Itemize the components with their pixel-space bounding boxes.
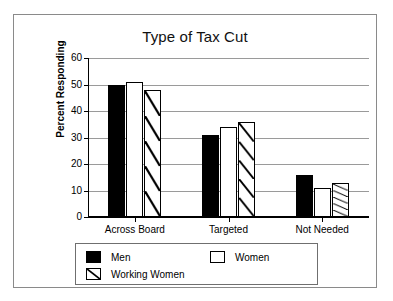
plot-inner: 0102030405060 Across BoardTargetedNot Ne… [88,58,369,217]
legend-entry-men[interactable]: Men [86,250,130,264]
legend-swatch-men-icon [86,251,101,263]
x-tick-mark-not-needed [322,217,323,222]
y-tick-label-0: 0 [56,212,82,222]
y-tick-label-10: 10 [56,186,82,196]
x-category-label-not-needed: Not Needed [295,224,348,235]
chart-title: Type of Tax Cut [14,28,376,45]
bar-across-board-women[interactable] [126,82,143,217]
bar-across-board-working-women[interactable] [144,90,161,217]
bar-group-across-board [108,58,161,217]
bar-group-targeted [202,58,255,217]
legend-label-men: Men [111,252,130,263]
bars-layer [88,58,369,217]
legend-swatch-working-women-icon [86,268,101,280]
y-tick-label-40: 40 [56,106,82,116]
y-tick-label-20: 20 [56,159,82,169]
bar-not-needed-working-women[interactable] [332,183,349,217]
legend-swatch-women-icon [210,251,225,263]
x-category-label-targeted: Targeted [209,224,248,235]
bar-targeted-working-women[interactable] [238,122,255,217]
y-tick-label-30: 30 [56,133,82,143]
chart-figure-frame: Type of Tax Cut Percent Responding 01020… [13,14,377,288]
legend-entry-working-women[interactable]: Working Women [86,267,185,281]
y-tick-label-50: 50 [56,80,82,90]
chart-legend: MenWomenWorking Women [75,243,318,285]
bar-targeted-women[interactable] [220,127,237,217]
bar-not-needed-women[interactable] [314,188,331,217]
bar-targeted-men[interactable] [202,135,219,217]
bar-across-board-men[interactable] [108,85,125,218]
y-tick-mark-0 [84,217,88,218]
legend-entry-women[interactable]: Women [210,250,269,264]
x-category-label-across-board: Across Board [105,224,165,235]
legend-label-women: Women [235,252,269,263]
plot-area: 0102030405060 Across BoardTargetedNot Ne… [88,58,369,217]
x-tick-mark-targeted [229,217,230,222]
y-tick-label-60: 60 [56,53,82,63]
bar-not-needed-men[interactable] [296,175,313,217]
x-tick-mark-across-board [135,217,136,222]
bar-group-not-needed [296,58,349,217]
legend-label-working-women: Working Women [111,269,185,280]
